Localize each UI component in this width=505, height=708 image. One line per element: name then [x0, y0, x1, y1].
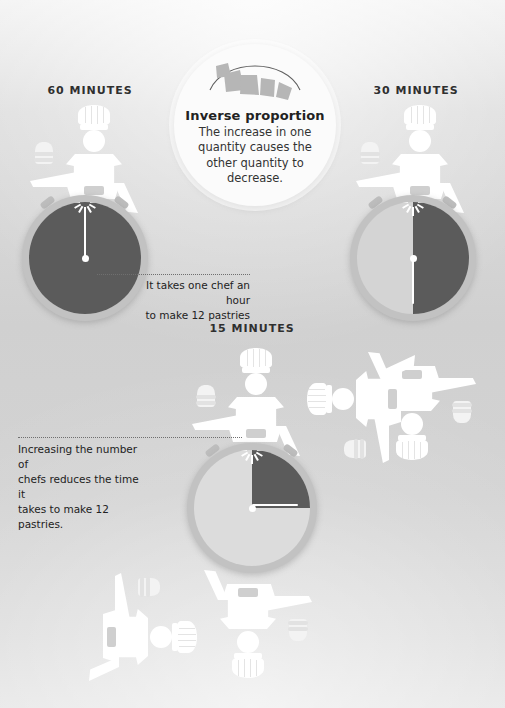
callout-top-text: It takes one chef an hour to make 12 pas…	[120, 278, 250, 323]
flour-jar-lid	[34, 158, 54, 162]
chef-head	[332, 388, 354, 410]
chef-hat-icon	[177, 621, 197, 653]
flour-jar-lid	[452, 409, 472, 413]
flour-jar-lid	[452, 403, 472, 407]
stopwatch-pin	[82, 255, 89, 262]
flour-jar-lid	[360, 158, 380, 162]
stopwatch-pin	[249, 505, 256, 512]
chef-figure-15-south	[192, 568, 312, 678]
chef-figure-15-north	[192, 348, 312, 458]
stopwatch-face	[357, 202, 469, 314]
chef-hat-rib	[103, 107, 104, 123]
chef-figure-15-east	[307, 343, 417, 463]
chef-peel-icon	[30, 171, 82, 187]
chef-peel-icon	[260, 596, 312, 612]
chef-hat-icon	[404, 105, 436, 125]
chef-hat-icon	[240, 348, 272, 368]
chef-hat-rib	[97, 106, 98, 124]
chef-hat-rib	[420, 442, 421, 458]
chef-apron-pocket	[238, 588, 258, 597]
chef-peel-icon	[356, 171, 408, 187]
chef-head	[150, 626, 172, 648]
chef-hat-rib	[91, 106, 92, 124]
chef-hat-icon	[307, 383, 327, 415]
stopwatch-hand-15	[252, 504, 298, 506]
chef-hat-rib	[429, 107, 430, 123]
infographic-canvas: 60 MINUTES	[0, 0, 505, 708]
chef-arm-right	[89, 657, 119, 681]
chef-hat-rib	[85, 107, 86, 123]
stopwatch-15-minutes	[187, 443, 317, 573]
chef-apron-pocket	[388, 389, 397, 409]
callout-bottom-leader	[18, 437, 242, 438]
chef-hat-icon	[78, 105, 110, 125]
chef-arm-right	[385, 355, 415, 379]
callout-bottom-text: Increasing the number of chefs reduces t…	[18, 442, 148, 531]
chef-peel-icon	[373, 411, 389, 463]
chef-apron-pocket	[107, 627, 116, 647]
definition-badge: Inverse proportion The increase in one q…	[174, 44, 336, 206]
flour-jar-lid	[360, 152, 380, 156]
chef-hat-rib	[417, 106, 418, 124]
flour-jar-lid	[34, 152, 54, 156]
chef-apron-pocket	[410, 186, 430, 195]
chef-head	[83, 130, 105, 152]
chef-hat-rib	[423, 106, 424, 124]
stopwatch-30-minutes	[350, 195, 476, 321]
chef-figure-15-west	[87, 573, 197, 693]
stopwatch-pin	[410, 255, 417, 262]
badge-title: Inverse proportion	[185, 108, 324, 123]
stopwatch-hand-30	[412, 258, 414, 304]
chef-head	[245, 373, 267, 395]
chef-hat-rib	[411, 107, 412, 123]
stopwatch-face	[194, 450, 310, 566]
chef-head	[409, 130, 431, 152]
chef-apron-pocket	[246, 429, 266, 438]
callout-top-leader	[97, 274, 250, 275]
chef-peel-icon	[424, 378, 476, 394]
section-label-60-minutes: 60 MINUTES	[22, 84, 158, 97]
chef-arm-right	[204, 570, 228, 600]
croissant-icon	[204, 60, 306, 104]
chef-peel-icon	[115, 573, 131, 625]
chef-peel-icon	[192, 414, 244, 430]
chef-hat-icon	[232, 658, 264, 678]
chef-apron-pocket	[84, 186, 104, 195]
section-label-15-minutes: 15 MINUTES	[182, 322, 322, 335]
badge-description: The increase in one quantity causes the …	[189, 125, 321, 187]
chef-head	[237, 631, 259, 653]
stopwatch-hand-60	[84, 215, 86, 258]
section-label-30-minutes: 30 MINUTES	[348, 84, 484, 97]
